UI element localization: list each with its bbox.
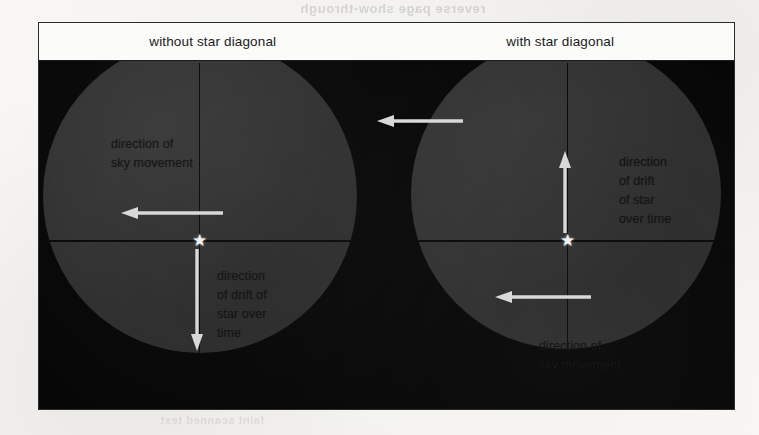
caption-sky-movement-right: direction of sky movement bbox=[539, 337, 699, 375]
arrow-sky-movement-right-icon bbox=[493, 291, 593, 303]
caption-star-drift-right: direction of drift of star over time bbox=[619, 153, 729, 229]
scanned-page: reverse page show-through faint scanned … bbox=[0, 0, 759, 435]
caption-sky-movement-left: direction of sky movement bbox=[111, 135, 271, 173]
arrow-between-panels-icon bbox=[375, 115, 465, 127]
sky-field: direction of sky movement ★ direction of… bbox=[39, 61, 734, 409]
panel-header-bar: without star diagonal with star diagonal bbox=[39, 23, 734, 61]
panel-title-without-star-diagonal: without star diagonal bbox=[39, 23, 387, 60]
figure-frame: without star diagonal with star diagonal… bbox=[38, 22, 735, 410]
arrow-star-drift-up-icon bbox=[559, 149, 571, 235]
page-bleed-through-bottom: faint scanned text bbox=[160, 414, 264, 426]
arrow-sky-movement-left-icon bbox=[119, 207, 225, 219]
panel-title-with-star-diagonal: with star diagonal bbox=[387, 23, 735, 60]
arrow-star-drift-down-icon bbox=[191, 247, 203, 353]
page-bleed-through-top: reverse page show-through bbox=[300, 1, 485, 16]
crosshair-horizontal-right bbox=[419, 240, 734, 242]
caption-star-drift-left: direction of drift of star over time bbox=[217, 267, 327, 343]
star-marker-right: ★ bbox=[558, 232, 576, 250]
